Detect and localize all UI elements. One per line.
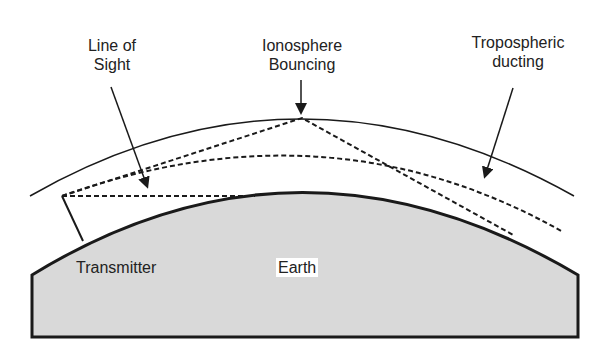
line-of-sight-label-line2: Sight: [72, 55, 152, 74]
line-of-sight-label-line1: Line of: [72, 36, 152, 55]
ionosphere-arc: [30, 119, 574, 196]
ionosphere-label-line1: Ionosphere: [250, 36, 354, 55]
transmitter-antenna: [62, 196, 83, 241]
tropospheric-label-line2: ducting: [456, 52, 580, 71]
ionosphere-label: Ionosphere Bouncing: [250, 36, 354, 74]
tropospheric-arrow: [485, 88, 513, 176]
earth-label: Earth: [276, 258, 318, 277]
transmitter-label: Transmitter: [76, 258, 156, 277]
tropospheric-label-line1: Tropospheric: [456, 33, 580, 52]
tropospheric-label: Tropospheric ducting: [456, 33, 580, 71]
ionosphere-label-line2: Bouncing: [250, 55, 354, 74]
line-of-sight-arrow: [111, 87, 147, 186]
line-of-sight-label: Line of Sight: [72, 36, 152, 74]
